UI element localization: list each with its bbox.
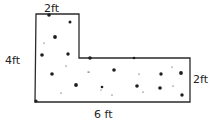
label-top-width: 2ft (44, 2, 60, 15)
label-bottom-width: 6 ft (94, 108, 113, 121)
l-shape-outline (35, 14, 190, 102)
label-left-height: 4ft (5, 54, 21, 67)
label-right-height: 2ft (193, 73, 209, 86)
l-shape-diagram: 2ft 4ft 2ft 6 ft (0, 0, 219, 129)
